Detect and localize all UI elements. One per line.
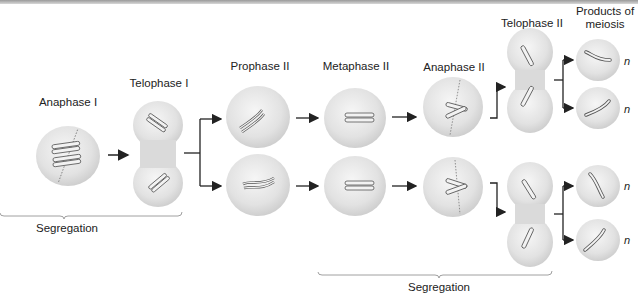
branch-arrow-1 [184, 119, 221, 186]
label-products: Products of meiosis [572, 5, 638, 31]
label-segregation-2: Segregation [404, 281, 474, 293]
label-telophase-1: Telophase I [124, 77, 194, 89]
label-segregation-1: Segregation [32, 222, 102, 234]
label-anaphase-1: Anaphase I [30, 96, 106, 108]
cell-anaphase-1 [36, 126, 100, 186]
label-telophase-2: Telophase II [496, 17, 568, 29]
cell-telophase-2-bottom [507, 162, 553, 267]
bracket-segregation-1 [0, 212, 182, 219]
product-cell-4 [576, 219, 620, 261]
label-products-line2: meiosis [586, 18, 625, 30]
cell-metaphase-2-top [324, 88, 386, 148]
elbow-arrows [490, 87, 505, 212]
cell-metaphase-2-bottom [324, 156, 386, 216]
product-cell-2 [576, 87, 620, 129]
label-products-line1: Products of [576, 5, 634, 17]
ploidy-label: n [624, 55, 630, 67]
cell-prophase-2-bottom [226, 154, 290, 216]
cell-anaphase-2-top [423, 77, 483, 137]
cell-telophase-2-top [507, 28, 553, 133]
cell-prophase-2-top [226, 86, 290, 148]
ploidy-label: n [624, 180, 630, 192]
label-anaphase-2: Anaphase II [418, 61, 490, 73]
meiosis-diagram [0, 0, 638, 295]
ploidy-label: n [624, 234, 630, 246]
label-prophase-2: Prophase II [222, 60, 298, 72]
bracket-segregation-2 [318, 271, 552, 278]
cell-anaphase-2-bottom [423, 157, 483, 217]
product-cell-3 [576, 165, 620, 207]
label-metaphase-2: Metaphase II [318, 60, 394, 72]
branch-arrows-products [554, 60, 573, 240]
ploidy-label: n [624, 103, 630, 115]
product-cell-1 [576, 39, 620, 81]
cell-telophase-1 [133, 101, 183, 207]
